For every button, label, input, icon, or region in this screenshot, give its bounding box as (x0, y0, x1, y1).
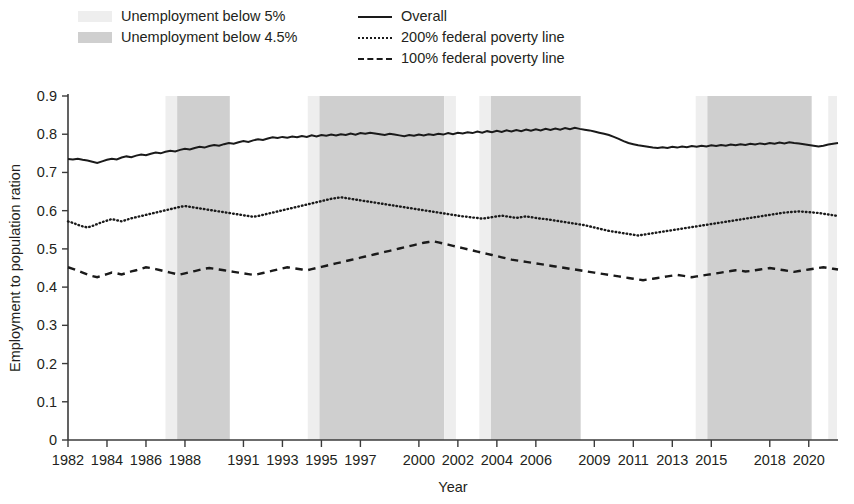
legend-item-band-1: Unemployment below 4.5% (78, 27, 298, 48)
y-tick-label-0.1: 0.1 (37, 394, 57, 410)
x-tick-label-2009: 2009 (578, 452, 610, 468)
y-tick-label-0.3: 0.3 (37, 317, 57, 333)
x-axis-title: Year (438, 479, 467, 495)
y-tick-label-0.2: 0.2 (37, 356, 57, 372)
x-tick-label-2011: 2011 (618, 452, 649, 468)
legend-band-column: Unemployment below 5% Unemployment below… (78, 6, 298, 48)
x-tick-label-1997: 1997 (344, 452, 376, 468)
y-tick-label-0.5: 0.5 (37, 241, 57, 257)
x-tick-label-1993: 1993 (266, 452, 298, 468)
y-tick-label-0.8: 0.8 (37, 126, 57, 142)
legend-swatch-below-5 (78, 11, 112, 22)
legend-line-200-fpl (358, 32, 392, 43)
x-tick-label-2002: 2002 (442, 452, 474, 468)
legend-item-series-2: 100% federal poverty line (358, 48, 565, 69)
y-tick-label-0: 0 (49, 432, 57, 448)
x-tick-label-2018: 2018 (754, 452, 786, 468)
legend-line-100-fpl (358, 53, 392, 64)
chart-legend: Unemployment below 5% Unemployment below… (0, 0, 854, 70)
legend-label-below-5: Unemployment below 5% (121, 9, 285, 24)
x-tick-label-2013: 2013 (656, 452, 688, 468)
employment-population-ratio-chart: 00.10.20.30.40.50.60.70.80.9198219841986… (0, 70, 854, 504)
x-tick-label-1984: 1984 (91, 452, 123, 468)
legend-item-series-0: Overall (358, 6, 565, 27)
y-axis-title: Employment to population ration (7, 164, 23, 372)
shaded-bands-group (165, 96, 837, 440)
legend-line-overall (358, 11, 392, 22)
x-tick-label-1982: 1982 (52, 452, 84, 468)
x-tick-label-2006: 2006 (520, 452, 552, 468)
x-tick-label-2004: 2004 (481, 452, 513, 468)
shaded-band-unemployment-below-4-5-3 (319, 96, 444, 440)
shaded-band-unemployment-below-4-5-8 (707, 96, 811, 440)
y-tick-label-0.7: 0.7 (37, 164, 57, 180)
x-tick-label-1991: 1991 (227, 452, 259, 468)
x-tick-label-2020: 2020 (793, 452, 825, 468)
legend-label-100-fpl: 100% federal poverty line (401, 51, 565, 66)
chart-plot-area: 00.10.20.30.40.50.60.70.80.9198219841986… (0, 70, 854, 504)
shaded-band-unemployment-below-5-5 (479, 96, 491, 440)
legend-label-below-4-5: Unemployment below 4.5% (121, 30, 298, 45)
x-tick-label-2015: 2015 (695, 452, 727, 468)
y-tick-label-0.9: 0.9 (37, 88, 57, 104)
legend-label-200-fpl: 200% federal poverty line (401, 30, 565, 45)
y-tick-label-0.4: 0.4 (37, 279, 57, 295)
legend-item-series-1: 200% federal poverty line (358, 27, 565, 48)
x-tick-label-2000: 2000 (403, 452, 435, 468)
legend-item-band-0: Unemployment below 5% (78, 6, 298, 27)
shaded-band-unemployment-below-5-0 (165, 96, 177, 440)
x-tick-label-1986: 1986 (130, 452, 162, 468)
legend-series-column: Overall 200% federal poverty line 100% f… (358, 6, 565, 69)
chart-page: Unemployment below 5% Unemployment below… (0, 0, 854, 504)
shaded-band-unemployment-below-5-4 (444, 96, 456, 440)
x-tick-label-1995: 1995 (305, 452, 337, 468)
y-tick-label-0.6: 0.6 (37, 203, 57, 219)
x-tick-label-1988: 1988 (169, 452, 201, 468)
legend-label-overall: Overall (401, 9, 447, 24)
legend-swatch-below-4-5 (78, 32, 112, 43)
